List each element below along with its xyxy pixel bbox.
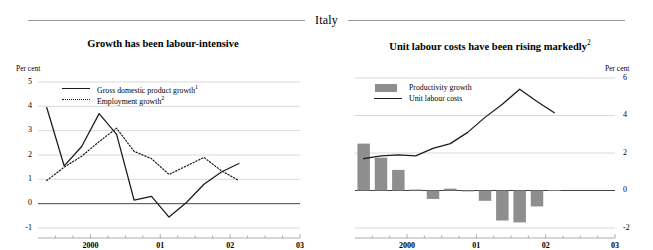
country-header: Italy	[0, 10, 653, 30]
country-title: Italy	[305, 13, 348, 28]
legend-bar-swatch-icon	[374, 83, 402, 93]
x-tick-label: 03	[285, 241, 315, 250]
y-tick-label: -2	[623, 223, 639, 232]
y-tick-label: 0	[16, 198, 32, 207]
legend-item-employment-growth: Employment growth2	[62, 94, 198, 105]
legend-note-gdp-growth: 1	[195, 84, 198, 90]
y-tick-label: 6	[623, 73, 639, 82]
legend-item-productivity-growth: Productivity growth	[374, 82, 472, 93]
chart-panel-unit-labour-costs: Unit labour costs have been rising marke…	[327, 30, 653, 250]
y-tick-label: 0	[623, 185, 639, 194]
legend-left: Gross domestic product growth1 Employmen…	[62, 83, 198, 105]
bar	[357, 144, 369, 191]
bar	[531, 191, 543, 207]
bar	[496, 191, 508, 221]
chart-panel-growth: Growth has been labour-intensive Per cen…	[0, 30, 326, 250]
y-tick-label: 1	[16, 174, 32, 183]
y-tick-label: 2	[16, 150, 32, 159]
x-tick-label: 01	[461, 241, 491, 250]
legend-label-employment-growth: Employment growth2	[97, 93, 164, 107]
y-tick-label: 4	[16, 101, 32, 110]
y-tick-label: 4	[623, 110, 639, 119]
y-tick-label: 3	[16, 125, 32, 134]
x-axis-left	[38, 234, 300, 238]
legend-right: Productivity growth Unit labour costs	[374, 82, 472, 104]
legend-item-unit-labour-costs: Unit labour costs	[374, 93, 472, 104]
header-rule-left	[28, 20, 305, 21]
legend-line-icon	[374, 94, 402, 104]
bar	[548, 190, 560, 191]
bar	[444, 189, 456, 191]
legend-label-employment-growth-text: Employment growth	[97, 96, 161, 105]
bar	[375, 158, 387, 191]
x-tick-label: 2000	[392, 241, 422, 250]
y-tick-label: -1	[16, 223, 32, 232]
x-axis-right	[355, 234, 615, 238]
legend-line-icon	[62, 84, 90, 94]
bar	[392, 170, 404, 191]
legend-label-unit-labour-costs: Unit labour costs	[409, 93, 462, 104]
header-rule-right	[348, 20, 625, 21]
plot-svg-left	[0, 30, 326, 250]
x-tick-label: 01	[145, 241, 175, 250]
x-tick-label: 02	[531, 241, 561, 250]
bar	[427, 191, 439, 199]
legend-label-productivity-growth: Productivity growth	[409, 82, 472, 93]
y-tick-label: 2	[623, 148, 639, 157]
bar	[409, 190, 421, 191]
bar	[461, 191, 473, 192]
legend-note-employment-growth: 2	[161, 95, 164, 101]
bar	[513, 191, 525, 223]
series-group-left	[47, 108, 239, 218]
y-tick-label: 5	[16, 77, 32, 86]
plot-svg-right	[327, 30, 653, 250]
series-line	[47, 128, 239, 180]
plot-area-right	[327, 30, 653, 250]
legend-dotted-line-icon	[62, 95, 90, 105]
x-tick-label: 2000	[75, 241, 105, 250]
bar	[479, 191, 491, 201]
x-tick-label: 03	[600, 241, 630, 250]
x-tick-label: 02	[215, 241, 245, 250]
plot-area-left	[0, 30, 326, 250]
